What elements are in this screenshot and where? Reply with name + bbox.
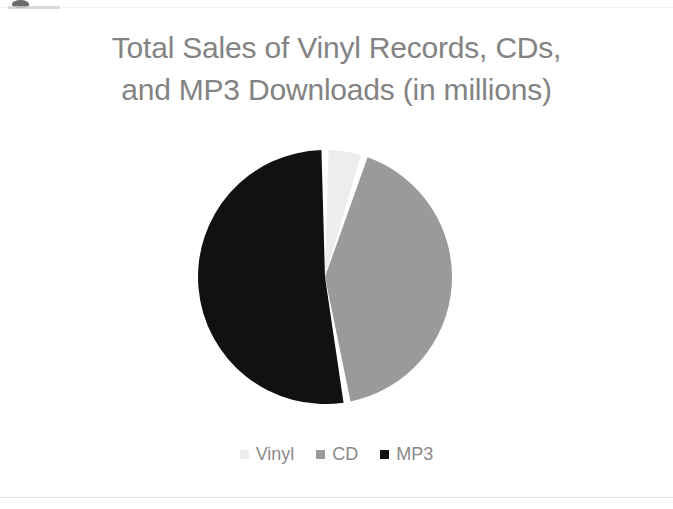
legend-item-cd[interactable]: CD (316, 444, 358, 464)
legend-item-vinyl[interactable]: Vinyl (240, 444, 295, 464)
pie-slice-mp3[interactable] (198, 150, 344, 404)
legend-swatch-vinyl-icon (240, 450, 249, 459)
pie-slice-group (198, 150, 452, 404)
legend-item-mp3[interactable]: MP3 (380, 444, 433, 464)
chart-legend: Vinyl CD MP3 (0, 444, 673, 464)
chart-figure: Total Sales of Vinyl Records, CDs, and M… (0, 0, 673, 509)
scan-edge-bottom-divider (0, 497, 673, 498)
legend-label-vinyl: Vinyl (256, 444, 295, 464)
legend-label-mp3: MP3 (396, 444, 433, 464)
legend-swatch-mp3-icon (380, 450, 389, 459)
pie-chart (0, 0, 673, 509)
pie-chart-svg (0, 0, 673, 509)
legend-label-cd: CD (332, 444, 358, 464)
legend-swatch-cd-icon (316, 450, 325, 459)
